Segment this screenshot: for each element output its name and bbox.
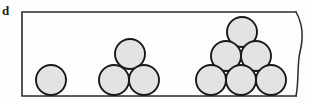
circle-g2-r2-c2 xyxy=(129,65,159,95)
circle-g3-r3-c2 xyxy=(226,65,256,95)
frame-torn-right-edge-icon xyxy=(296,12,302,96)
circle-g3-r3-c1 xyxy=(196,65,226,95)
cluster-3 xyxy=(99,39,159,95)
figure-drawing-area xyxy=(0,0,310,104)
circle-g2-r2-c1 xyxy=(99,65,129,95)
circle-g3-r3-c3 xyxy=(256,65,286,95)
cluster-6 xyxy=(196,17,286,95)
cluster-1 xyxy=(36,65,66,95)
circle-g1-r1-c1 xyxy=(36,65,66,95)
figure-panel-d: d xyxy=(0,0,310,104)
